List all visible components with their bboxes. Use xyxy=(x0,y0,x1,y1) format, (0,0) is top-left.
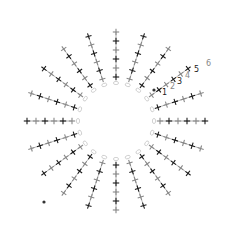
chain-stitch xyxy=(135,87,141,93)
start-marker-dot xyxy=(152,88,155,91)
single-crochet-stitch xyxy=(150,69,155,73)
chain-ring xyxy=(76,81,155,160)
stitch-spoke xyxy=(139,154,171,196)
row-number-label: 2 xyxy=(170,82,175,91)
chain-stitch xyxy=(125,155,131,160)
single-crochet-stitch xyxy=(160,184,165,188)
stitch-spoke xyxy=(24,118,75,124)
start-markers xyxy=(42,88,155,203)
single-crochet-stitch xyxy=(179,165,183,170)
crochet-chart: 123456 xyxy=(0,0,232,242)
single-crochet-stitch xyxy=(72,62,77,66)
stitch-spoke xyxy=(155,132,204,152)
single-crochet-stitch xyxy=(139,155,144,159)
chain-stitch xyxy=(125,83,131,88)
single-crochet-stitch xyxy=(155,62,160,66)
stitch-spoke xyxy=(28,91,77,111)
single-crochet-stitch xyxy=(61,191,66,195)
start-marker-dot xyxy=(42,200,45,203)
single-crochet-stitch xyxy=(49,165,53,170)
single-crochet-stitch xyxy=(157,150,161,155)
stitch-spoke xyxy=(157,118,208,124)
chain-stitch xyxy=(135,149,141,155)
chain-stitch xyxy=(91,149,97,155)
single-crochet-stitch xyxy=(157,87,161,92)
chain-stitch xyxy=(78,106,83,112)
chain-stitch xyxy=(113,81,118,84)
single-crochet-stitch xyxy=(77,169,82,173)
single-crochet-stitch xyxy=(42,171,46,176)
single-crochet-stitch xyxy=(145,162,150,166)
single-crochet-stitch xyxy=(145,76,150,80)
chain-stitch xyxy=(91,87,97,93)
single-crochet-stitch xyxy=(42,66,46,71)
single-crochet-stitch xyxy=(164,82,168,87)
single-crochet-stitch xyxy=(139,84,144,88)
single-crochet-stitch xyxy=(88,155,93,159)
single-crochet-stitch xyxy=(66,184,71,188)
single-crochet-stitch xyxy=(164,155,168,160)
row-labels: 123456 xyxy=(162,59,211,97)
single-crochet-stitch xyxy=(71,87,75,92)
row-number-label: 6 xyxy=(206,59,211,68)
chain-stitch xyxy=(150,106,155,112)
single-crochet-stitch xyxy=(49,71,53,76)
stitch-spoke xyxy=(61,46,93,88)
row-number-label: 3 xyxy=(177,77,182,86)
single-crochet-stitch xyxy=(72,177,77,181)
single-crochet-stitch xyxy=(172,160,176,165)
single-crochet-stitch xyxy=(57,160,61,165)
stitch-spoke xyxy=(86,160,106,209)
chain-stitch xyxy=(101,83,107,88)
stitch-spoke xyxy=(28,132,77,152)
chain-stitch xyxy=(82,140,88,146)
single-crochet-stitch xyxy=(150,169,155,173)
stitch-spoke xyxy=(86,33,106,82)
single-crochet-stitch xyxy=(150,93,154,98)
stitch-spokes xyxy=(24,29,208,213)
single-crochet-stitch xyxy=(71,150,75,155)
stitch-spoke xyxy=(139,46,171,88)
single-crochet-stitch xyxy=(179,71,183,76)
stitch-spoke xyxy=(113,162,119,213)
chain-stitch xyxy=(144,140,150,146)
single-crochet-stitch xyxy=(64,155,68,160)
single-crochet-stitch xyxy=(88,84,93,88)
stitch-spoke xyxy=(61,154,93,196)
single-crochet-stitch xyxy=(61,47,66,51)
single-crochet-stitch xyxy=(82,76,87,80)
row-number-label: 4 xyxy=(185,71,190,80)
single-crochet-stitch xyxy=(66,54,71,58)
single-crochet-stitch xyxy=(166,191,171,195)
single-crochet-stitch xyxy=(166,47,171,51)
chain-stitch xyxy=(76,118,79,123)
single-crochet-stitch xyxy=(57,77,61,82)
single-crochet-stitch xyxy=(186,171,190,176)
single-crochet-stitch xyxy=(79,144,83,149)
chain-stitch xyxy=(152,118,155,123)
single-crochet-stitch xyxy=(79,93,83,98)
chain-stitch xyxy=(82,96,88,102)
row-number-label: 5 xyxy=(194,65,199,74)
stitch-spoke xyxy=(41,144,83,176)
stitch-spoke xyxy=(41,66,83,98)
single-crochet-stitch xyxy=(155,177,160,181)
chain-stitch xyxy=(144,96,150,102)
stitch-spoke xyxy=(127,33,147,82)
single-crochet-stitch xyxy=(150,144,154,149)
single-crochet-stitch xyxy=(160,54,165,58)
stitch-spoke xyxy=(149,144,191,176)
single-crochet-stitch xyxy=(77,69,82,73)
stitch-spoke xyxy=(127,160,147,209)
stitch-spoke xyxy=(113,29,119,80)
chain-stitch xyxy=(150,130,155,136)
chain-stitch xyxy=(101,155,107,160)
chain-stitch xyxy=(113,157,118,160)
chain-stitch xyxy=(78,130,83,136)
single-crochet-stitch xyxy=(82,162,87,166)
row-number-label: 1 xyxy=(162,88,167,97)
single-crochet-stitch xyxy=(64,82,68,87)
